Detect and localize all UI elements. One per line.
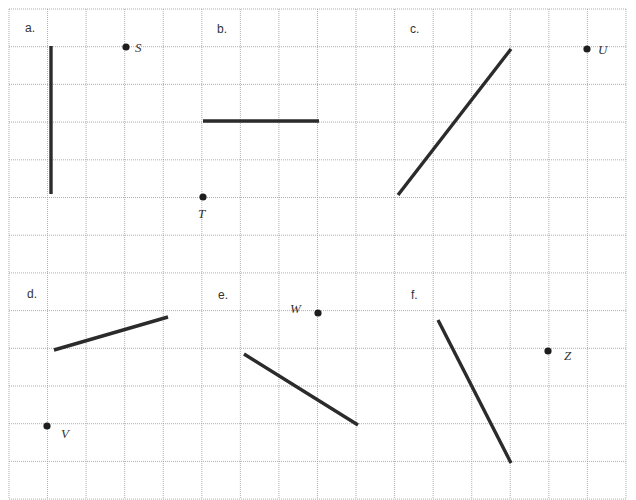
panel-e: e.W [218,288,358,425]
point-label: U [598,42,609,57]
point-v [43,422,50,429]
panel-label: e. [218,288,228,302]
panel-label: f. [411,288,418,302]
grid-paper [9,9,626,499]
point-label: S [135,40,142,55]
line-segment [398,49,511,195]
panel-d: d.V [27,287,168,441]
point-w [314,309,321,316]
panel-label: d. [27,287,37,301]
point-label: Z [564,348,572,363]
point-label: T [198,206,206,221]
panel-b: b.T [198,22,319,221]
point-t [199,193,206,200]
line-segment [54,317,168,350]
point-z [544,347,551,354]
panel-label: b. [217,22,227,36]
panel-f: f.Z [411,288,572,463]
point-u [583,45,590,52]
line-segment [244,354,358,425]
point-label: W [290,301,302,316]
point-s [122,43,129,50]
panel-label: a. [25,21,35,35]
grid-figure: a.Sb.Tc.Ud.Ve.Wf.Z [0,0,636,500]
point-label: V [61,426,71,441]
panel-label: c. [410,22,419,36]
panel-c: c.U [398,22,609,195]
line-segment [438,320,511,463]
panels: a.Sb.Tc.Ud.Ve.Wf.Z [25,21,609,463]
